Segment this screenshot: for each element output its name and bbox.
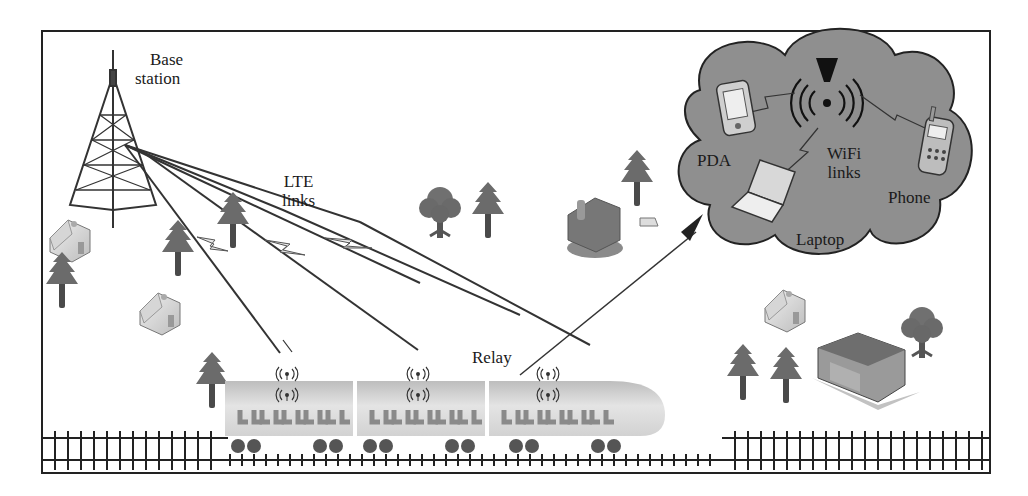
lte-links-label: LTE links — [282, 172, 315, 210]
phone-label: Phone — [888, 188, 931, 207]
house-icon — [50, 220, 90, 262]
base-station-label: Base station — [135, 50, 183, 88]
house-icon — [765, 290, 805, 332]
lte-lightning-icons — [197, 237, 372, 255]
lte-links — [125, 145, 590, 353]
pine-tree-icon — [621, 150, 653, 206]
pine-tree-icon — [727, 344, 759, 400]
relay-label: Relay — [472, 348, 512, 367]
train-relay-network-diagram: Base station LTE links Relay PDA WiFi li… — [0, 0, 1028, 496]
train-car-1 — [225, 381, 353, 436]
station-building-icon — [812, 333, 920, 410]
pine-tree-icon — [472, 182, 504, 238]
barn-icon — [567, 198, 658, 258]
pine-tree-icon — [162, 220, 194, 276]
pda-label: PDA — [697, 151, 731, 170]
relay-antenna-icon — [407, 367, 429, 381]
oak-tree-icon — [901, 307, 943, 358]
oak-tree-icon — [419, 187, 461, 238]
train-car-3-nose — [489, 381, 665, 436]
train-car-2 — [357, 381, 485, 436]
laptop-label: Laptop — [796, 230, 844, 249]
pine-tree-icon — [770, 347, 802, 403]
relay-antenna-icon — [537, 367, 559, 381]
pine-tree-icon — [196, 352, 228, 408]
relay-antenna-icon — [276, 367, 298, 381]
relay-pointer-lines — [283, 340, 292, 352]
wifi-links-label: WiFi links — [827, 144, 861, 182]
train-wheels — [231, 439, 621, 453]
house-icon — [140, 293, 180, 335]
train — [225, 367, 665, 453]
